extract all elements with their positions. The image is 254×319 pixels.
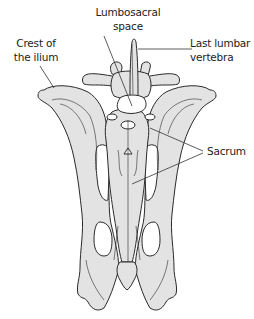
spinous-process — [130, 39, 138, 96]
sacral-foramen — [145, 114, 155, 120]
label-last-lumbar-vertebra: Last lumbar vertebra — [190, 36, 250, 64]
tail-vertebra — [117, 262, 137, 290]
left-obturator-foramen — [94, 222, 112, 256]
pelvis-diagram: Lumbosacral space Crest of the ilium Las… — [0, 0, 254, 319]
sacral-foramen — [107, 114, 117, 120]
right-obturator-foramen — [142, 222, 160, 256]
leader-crest — [40, 66, 54, 88]
label-lumbosacral-space: Lumbosacral space — [82, 5, 174, 33]
label-crest-of-ilium: Crest of the ilium — [6, 36, 66, 64]
label-sacrum: Sacrum — [207, 144, 246, 158]
